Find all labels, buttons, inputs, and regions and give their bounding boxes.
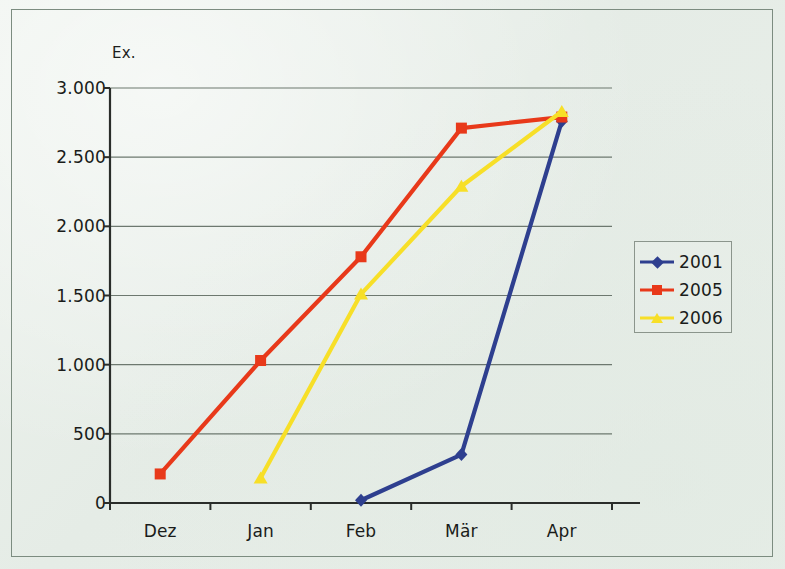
data-point-marker-square [356, 251, 367, 262]
legend-item-2006[interactable]: 2006 [635, 304, 731, 332]
legend-label: 2001 [679, 252, 723, 272]
legend-item-2005[interactable]: 2005 [635, 276, 731, 304]
series-line-2001 [361, 121, 562, 500]
chart-plot-container: Ex. 05001.0001.5002.0002.5003.000 DezJan… [0, 0, 785, 569]
data-point-marker-diamond [355, 494, 367, 507]
legend-swatch-2006 [640, 309, 674, 327]
legend-item-2001[interactable]: 2001 [635, 248, 731, 276]
series-2001 [355, 115, 568, 507]
series-2006 [254, 105, 569, 484]
data-point-marker-square [155, 468, 166, 479]
chart-page: Ex. 05001.0001.5002.0002.5003.000 DezJan… [0, 0, 785, 569]
data-point-marker-square [456, 123, 467, 134]
legend-marker-diamond-icon [651, 256, 664, 269]
data-point-marker-square [255, 355, 266, 366]
legend-label: 2006 [679, 308, 723, 328]
legend-swatch-2005 [640, 281, 674, 299]
series-line-2006 [261, 112, 562, 479]
legend-marker-triangle-icon [651, 313, 663, 323]
data-point-marker-triangle [555, 105, 569, 117]
legend-marker-square-icon [652, 285, 662, 295]
data-point-marker-diamond [455, 448, 467, 461]
legend-swatch-2001 [640, 253, 674, 271]
chart-legend[interactable]: 200120052006 [634, 241, 732, 333]
legend-label: 2005 [679, 280, 723, 300]
